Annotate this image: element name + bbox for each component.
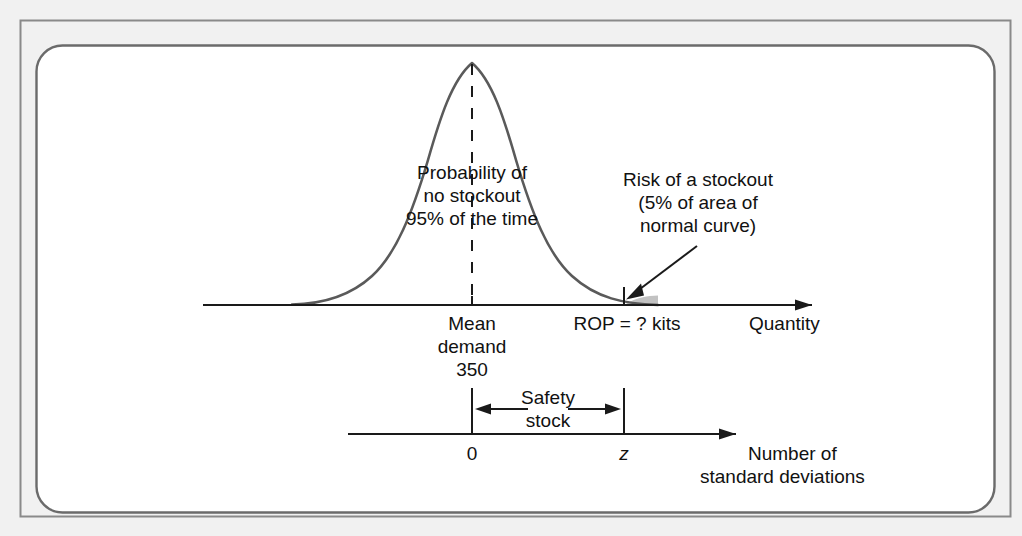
rop-label: ROP = ? kits xyxy=(574,313,681,334)
mean-demand-value: 350 xyxy=(456,359,488,380)
deviations-axis-label-line2: standard deviations xyxy=(700,466,865,487)
no-stockout-label-line2: no stockout xyxy=(423,185,521,206)
z-zero-tick-label: 0 xyxy=(467,443,478,464)
deviations-axis-label-line1: Number of xyxy=(748,443,837,464)
quantity-axis-label: Quantity xyxy=(749,313,820,334)
risk-label-line3: normal curve) xyxy=(640,215,756,236)
inner-rounded-panel xyxy=(37,46,995,513)
safety-stock-label-line1: Safety xyxy=(521,387,575,408)
risk-label-line1: Risk of a stockout xyxy=(623,169,774,190)
no-stockout-label-line3: 95% of the time xyxy=(406,208,538,229)
mean-demand-label-line1: Mean xyxy=(448,313,496,334)
mean-demand-label-line2: demand xyxy=(438,336,507,357)
safety-stock-diagram: Probability of no stockout 95% of the ti… xyxy=(0,0,1022,536)
no-stockout-label-line1: Probability of xyxy=(417,162,528,183)
z-value-tick-label: z xyxy=(618,443,629,464)
risk-label-line2: (5% of area of xyxy=(638,192,758,213)
safety-stock-label-line2: stock xyxy=(526,410,571,431)
figure-container: Probability of no stockout 95% of the ti… xyxy=(0,0,1022,536)
